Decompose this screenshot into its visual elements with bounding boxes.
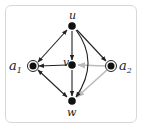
label-u: u [69, 9, 76, 22]
node-a1 [28, 61, 39, 72]
label-a2: a2 [119, 58, 132, 75]
label-w: w [67, 106, 77, 119]
node-v [68, 61, 76, 69]
node-w [68, 97, 76, 105]
label-a1: a1 [9, 58, 22, 75]
node-a2 [106, 61, 117, 72]
graph-canvas: u v w a1 a2 [0, 0, 143, 128]
edge-a2-v [78, 65, 106, 66]
edge-a2-w [77, 70, 107, 97]
edge-a1-w [38, 70, 67, 97]
label-v: v [63, 56, 70, 69]
edge-u-a2 [77, 30, 106, 61]
node-u [68, 22, 76, 30]
